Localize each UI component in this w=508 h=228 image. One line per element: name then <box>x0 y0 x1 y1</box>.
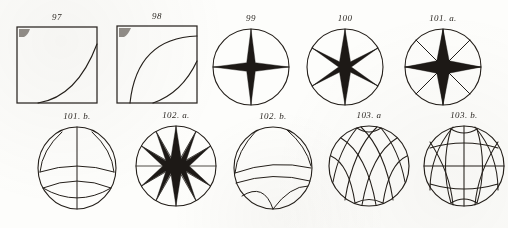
figure-98-caption: 98 <box>116 11 198 21</box>
figure-102b-upper-left-arc <box>235 131 256 173</box>
figure-103b-oblique-b1 <box>430 142 453 205</box>
figure-101a: 101. a. <box>403 13 483 107</box>
figure-98-artwork <box>116 25 198 104</box>
figure-100-artwork <box>305 27 385 107</box>
figure-99-artwork <box>211 27 291 107</box>
figure-101b: 101. b. <box>36 111 118 215</box>
figure-98-upper-curve <box>130 36 197 103</box>
figure-97-caption: 97 <box>16 12 98 22</box>
figure-98: 98 <box>116 11 198 104</box>
figure-102a-artwork <box>134 124 218 208</box>
figure-102a: 102. a. <box>134 110 218 215</box>
figure-103b: 103. b. <box>422 110 506 215</box>
figure-97-corner-smudge <box>19 29 30 37</box>
figure-97-frame <box>17 27 97 103</box>
figure-plate: 97 98 99 <box>0 0 508 228</box>
figure-101a-caption: 101. a. <box>403 13 483 23</box>
figure-102a-caption: 102. a. <box>134 110 218 120</box>
figure-103b-artwork <box>422 124 506 208</box>
figure-97-curve <box>38 44 97 103</box>
figure-103a-arc-a1 <box>333 128 357 182</box>
figure-98-lower-curve <box>153 61 197 103</box>
figure-103a: 103. a <box>327 110 411 215</box>
figure-103a-caption: 103. a <box>327 110 411 120</box>
figure-99: 99 <box>211 13 291 107</box>
figure-101b-artwork <box>36 126 118 210</box>
figure-97: 97 <box>16 12 98 104</box>
figure-101a-artwork <box>403 27 483 107</box>
figure-99-caption: 99 <box>211 13 291 23</box>
figure-102b-parallel-upper <box>235 164 311 173</box>
figure-103a-arc-b1 <box>381 128 405 182</box>
figure-102b-circle <box>234 127 312 209</box>
figure-98-corner-smudge <box>119 28 131 37</box>
figure-103b-oblique-a1 <box>430 127 453 190</box>
figure-102b: 102. b. <box>232 111 314 215</box>
figure-103b-oblique-b2 <box>475 142 498 205</box>
figure-103b-oblique-a2 <box>475 127 498 190</box>
figure-103b-caption: 103. b. <box>422 110 506 120</box>
figure-100-caption: 100 <box>305 13 385 23</box>
figure-100: 100 <box>305 13 385 107</box>
figure-103a-net-family-a <box>333 127 407 205</box>
figure-100-star <box>312 29 378 105</box>
figure-102b-parallel-mid <box>236 176 310 183</box>
figure-102b-artwork <box>232 126 314 210</box>
figure-103a-net-family-b <box>331 127 405 205</box>
figure-101b-caption: 101. b. <box>36 111 118 121</box>
figure-102b-lower-right-arc <box>273 186 308 209</box>
figure-103a-bottom-cap <box>355 200 383 204</box>
figure-102b-caption: 102. b. <box>232 111 314 121</box>
figure-101a-star-hub <box>405 29 481 105</box>
figure-97-artwork <box>16 26 98 104</box>
figure-103a-artwork <box>327 124 411 208</box>
figure-103a-top-cap <box>357 128 381 132</box>
